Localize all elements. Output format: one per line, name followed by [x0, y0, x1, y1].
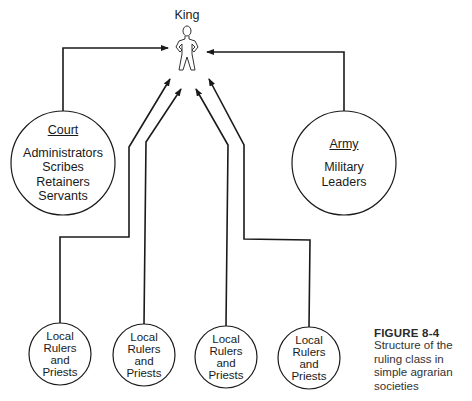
- local-line: Priests: [42, 366, 77, 378]
- local-line: Local: [130, 331, 158, 343]
- local-line: Local: [212, 333, 240, 345]
- local-line: Rulers: [209, 345, 242, 357]
- local-node-3-text: Local Rulers and Priests: [195, 326, 257, 388]
- local-node-2-text: Local Rulers and Priests: [113, 324, 175, 386]
- local-line: and: [134, 355, 153, 367]
- figure-label: FIGURE 8-4: [374, 327, 472, 339]
- edge-local-3-to-king: [196, 89, 228, 326]
- local-line: Rulers: [127, 343, 160, 355]
- edge-local-2-to-king: [144, 89, 181, 324]
- court-item: Retainers: [36, 175, 90, 190]
- court-item: Scribes: [42, 160, 84, 175]
- local-line: Priests: [126, 367, 161, 379]
- local-node-4-text: Local Rulers and Priests: [278, 327, 340, 389]
- local-line: Local: [295, 334, 323, 346]
- king-label: King: [167, 8, 207, 22]
- court-item: Administrators: [23, 146, 103, 161]
- figure-caption: FIGURE 8-4 Structure of the ruling class…: [374, 327, 472, 393]
- edge-court-to-king: [63, 48, 168, 111]
- local-line: Rulers: [292, 346, 325, 358]
- local-line: Rulers: [43, 342, 76, 354]
- king-figure-icon: [176, 26, 198, 70]
- local-line: and: [299, 358, 318, 370]
- court-item: Servants: [38, 189, 87, 204]
- court-title: Court: [48, 123, 79, 138]
- local-node-1-text: Local Rulers and Priests: [29, 323, 91, 385]
- local-line: Priests: [208, 369, 243, 381]
- local-line: and: [50, 354, 69, 366]
- local-line: and: [216, 357, 235, 369]
- army-node-text: Army Military Leaders: [292, 111, 396, 215]
- army-item: Military: [324, 160, 364, 175]
- local-line: Priests: [291, 370, 326, 382]
- army-title: Army: [329, 137, 358, 152]
- local-line: Local: [46, 330, 74, 342]
- army-item: Leaders: [321, 175, 366, 190]
- court-node-text: Court Administrators Scribes Retainers S…: [11, 111, 115, 215]
- edge-army-to-king: [207, 52, 344, 111]
- figure-description: Structure of the ruling class in simple …: [374, 339, 472, 393]
